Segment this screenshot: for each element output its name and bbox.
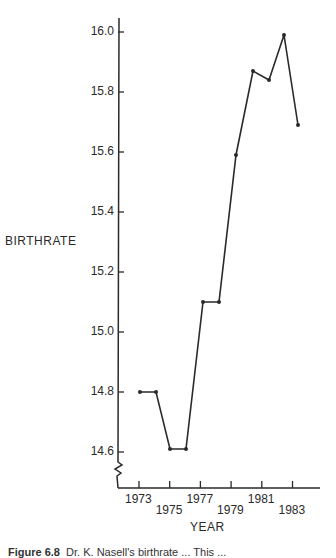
y-tick-label: 15.0 (74, 324, 114, 338)
data-point (138, 390, 142, 394)
data-point (154, 390, 158, 394)
x-tick-label: 1975 (156, 503, 183, 517)
y-tick-label: 15.6 (74, 144, 114, 158)
caption-text: Dr. K. Nasell's birthrate ... This ... (66, 546, 226, 558)
y-tick-label: 14.8 (74, 384, 114, 398)
y-tick-label: 14.6 (74, 444, 114, 458)
figure-caption: Figure 6.8 Dr. K. Nasell's birthrate ...… (8, 546, 226, 558)
y-tick-label: 15.4 (74, 204, 114, 218)
x-tick-label: 1983 (279, 503, 306, 517)
data-point (234, 153, 238, 157)
y-tick-label: 15.2 (74, 264, 114, 278)
data-point (267, 78, 271, 82)
x-tick-label: 1977 (186, 492, 213, 506)
y-axis (115, 18, 122, 488)
data-point (201, 300, 205, 304)
x-tick-label: 1979 (217, 503, 244, 517)
caption-prefix: Figure 6.8 (8, 546, 60, 558)
birthrate-line (140, 35, 298, 449)
data-point (168, 447, 172, 451)
data-point (184, 447, 188, 451)
y-axis-label: BIRTHRATE (5, 234, 76, 248)
y-tick-label: 16.0 (74, 24, 114, 38)
x-axis-label: YEAR (190, 520, 225, 534)
data-point (296, 123, 300, 127)
x-tick-label: 1981 (248, 492, 275, 506)
y-tick-label: 15.8 (74, 84, 114, 98)
data-point (251, 69, 255, 73)
data-point (282, 33, 286, 37)
data-point (217, 300, 221, 304)
x-tick-label: 1973 (125, 492, 152, 506)
